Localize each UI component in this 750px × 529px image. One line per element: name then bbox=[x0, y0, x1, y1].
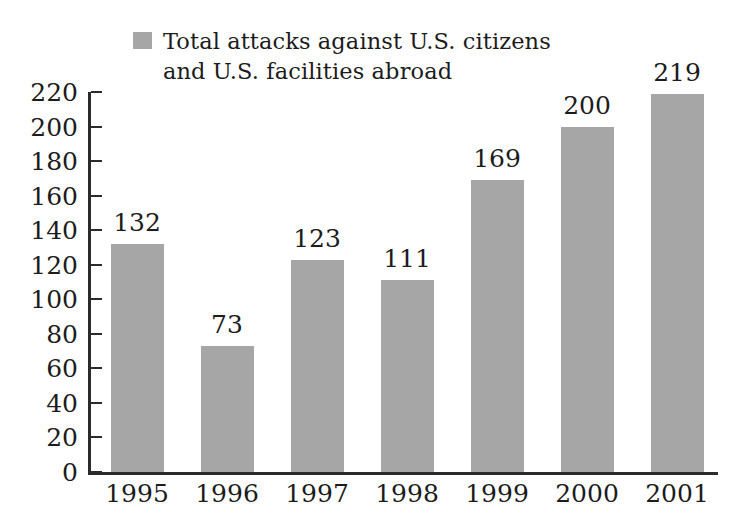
y-axis-tick-label: 160 bbox=[30, 183, 78, 208]
bar-group: 2192001 bbox=[651, 92, 704, 472]
y-axis-tick: 20 bbox=[91, 436, 102, 438]
bar-value-label: 123 bbox=[293, 226, 341, 251]
bar bbox=[201, 346, 254, 472]
x-axis-tick-label: 2001 bbox=[645, 481, 709, 506]
y-axis-tick-label: 200 bbox=[30, 114, 78, 139]
x-axis-tick-label: 2000 bbox=[555, 481, 619, 506]
x-axis-line bbox=[88, 472, 718, 475]
y-axis-tick-label: 60 bbox=[46, 356, 78, 381]
bar-value-label: 73 bbox=[211, 312, 243, 337]
y-axis-tick-label: 140 bbox=[30, 218, 78, 243]
bar-chart-figure: Total attacks against U.S. citizens and … bbox=[0, 0, 750, 529]
x-axis-tick-label: 1998 bbox=[375, 481, 439, 506]
y-axis-tick: 120 bbox=[91, 264, 102, 266]
y-axis-tick-label: 40 bbox=[46, 390, 78, 415]
y-axis-tick: 80 bbox=[91, 333, 102, 335]
bar-group: 2002000 bbox=[561, 92, 614, 472]
bar-value-label: 200 bbox=[563, 93, 611, 118]
bar bbox=[651, 94, 704, 472]
bar-value-label: 169 bbox=[473, 146, 521, 171]
y-axis-tick: 140 bbox=[91, 229, 102, 231]
y-axis-tick: 40 bbox=[91, 402, 102, 404]
y-axis-tick: 100 bbox=[91, 298, 102, 300]
bar-value-label: 219 bbox=[653, 60, 701, 85]
y-axis-tick: 200 bbox=[91, 126, 102, 128]
y-axis-tick-label: 100 bbox=[30, 287, 78, 312]
bar-group: 731996 bbox=[201, 92, 254, 472]
y-axis-tick-label: 0 bbox=[62, 460, 78, 485]
x-axis-tick-label: 1997 bbox=[285, 481, 349, 506]
y-axis-tick: 180 bbox=[91, 160, 102, 162]
y-axis-tick: 160 bbox=[91, 195, 102, 197]
y-axis-tick-label: 20 bbox=[46, 425, 78, 450]
bar-value-label: 111 bbox=[383, 246, 431, 271]
bar bbox=[471, 180, 524, 472]
y-axis-tick: 60 bbox=[91, 367, 102, 369]
bar bbox=[291, 260, 344, 472]
bar-group: 1111998 bbox=[381, 92, 434, 472]
y-axis-tick-label: 120 bbox=[30, 252, 78, 277]
bar bbox=[561, 127, 614, 472]
bar-group: 1321995 bbox=[111, 92, 164, 472]
x-axis-tick-label: 1999 bbox=[465, 481, 529, 506]
y-axis-tick: 220 bbox=[91, 91, 102, 93]
y-axis-tick: 0 bbox=[91, 471, 102, 473]
y-axis-tick-label: 180 bbox=[30, 149, 78, 174]
x-axis-tick-label: 1996 bbox=[195, 481, 259, 506]
bar-group: 1231997 bbox=[291, 92, 344, 472]
x-axis-tick-label: 1995 bbox=[105, 481, 169, 506]
plot-area: 220200180160140120100806040200 132199573… bbox=[88, 92, 718, 472]
y-axis-tick-label: 220 bbox=[30, 80, 78, 105]
bar-group: 1691999 bbox=[471, 92, 524, 472]
y-axis-line bbox=[88, 92, 91, 472]
legend-swatch-icon bbox=[133, 32, 152, 49]
y-axis-tick-label: 80 bbox=[46, 321, 78, 346]
bar bbox=[381, 280, 434, 472]
chart-legend: Total attacks against U.S. citizens and … bbox=[133, 26, 551, 86]
bar bbox=[111, 244, 164, 472]
bar-value-label: 132 bbox=[113, 210, 161, 235]
legend-label: Total attacks against U.S. citizens and … bbox=[163, 26, 551, 86]
